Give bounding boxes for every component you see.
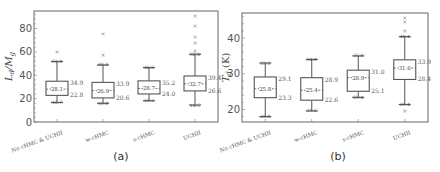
whisker-low-value: 19.6: [307, 108, 317, 113]
x-tick-label: s-cHMC: [341, 129, 364, 142]
x-tick-label: No cHMC & UCHII: [11, 129, 64, 153]
panel-label: (a): [113, 150, 128, 163]
y-tick-label: 40: [227, 33, 240, 44]
q1-value: 24.0: [162, 90, 176, 97]
outlier-marker: ×: [192, 22, 197, 29]
y-tick-label: 20: [19, 93, 32, 104]
outlier-marker: ×: [192, 12, 197, 19]
median-value: 25.8: [259, 86, 272, 92]
q3-value: 28.9: [325, 76, 339, 83]
whisker-high-value: 48.8: [98, 62, 108, 67]
box-3: 35.023.428.931.025.1s-cHMC: [341, 53, 384, 142]
y-tick-label: 20: [227, 104, 240, 115]
outlier-marker: ×: [402, 107, 407, 114]
box-3: 46.618.228.735.224.0s-cHMC: [132, 65, 175, 143]
whisker-low-value: 14.5: [190, 103, 200, 108]
panel-label: (b): [330, 150, 346, 163]
whisker-high-value: 33.0: [260, 61, 270, 66]
median-value: 28.1: [51, 86, 63, 92]
median-value: 31.6: [399, 65, 412, 71]
whisker-low-value: 18.0: [260, 114, 270, 119]
q3-value: 33.9: [418, 58, 432, 65]
panel-a: 020406080Ld/Mg51.816.728.134.922.8×No cH…: [3, 11, 222, 163]
x-tick-label: UCHII: [392, 129, 411, 141]
q3-value: 33.9: [116, 80, 130, 87]
q1-value: 22.8: [70, 91, 84, 98]
box-2: 34.019.625.428.922.6w-cHMC: [293, 57, 338, 143]
q1-value: 26.6: [208, 87, 222, 94]
q1-value: 20.6: [116, 94, 130, 101]
q3-value: 34.9: [70, 79, 84, 86]
outlier-marker: ×: [100, 51, 105, 58]
outlier-marker: ×: [402, 27, 407, 34]
median-value: 26.9: [97, 88, 110, 94]
median-value: 28.7: [143, 85, 156, 91]
y-tick-label: 60: [19, 46, 32, 57]
x-tick-label: w-cHMC: [84, 129, 109, 143]
panel-b: 203040Td (K)33.018.025.829.123.3No cHMC …: [219, 13, 431, 163]
outlier-marker: ×: [54, 48, 59, 55]
y-axis-label: Ld/Mg: [3, 51, 16, 82]
outlier-marker: ×: [402, 14, 407, 21]
whisker-high-value: 34.0: [307, 57, 317, 62]
median-value: 25.4: [306, 87, 319, 93]
x-tick-label: s-cHMC: [132, 129, 155, 142]
x-tick-label: w-cHMC: [293, 129, 318, 143]
q3-value: 35.2: [162, 79, 176, 86]
q1-value: 28.4: [418, 75, 432, 82]
median-value: 32.7: [189, 81, 202, 87]
whisker-high-value: 40.4: [400, 34, 410, 39]
x-tick-label: UCHII: [182, 129, 201, 141]
box-2: 48.816.026.933.920.6××w-cHMC: [84, 30, 129, 143]
q1-value: 25.1: [371, 87, 384, 94]
whisker-high-value: 35.0: [353, 53, 363, 58]
y-tick-label: 0: [26, 117, 32, 128]
figure: 020406080Ld/Mg51.816.728.134.922.8×No cH…: [0, 0, 440, 172]
q1-value: 23.3: [278, 94, 292, 101]
q3-value: 29.1: [278, 75, 291, 82]
outlier-marker: ×: [100, 30, 105, 37]
iqr-box: [347, 70, 369, 91]
y-tick-label: 80: [19, 23, 32, 34]
x-tick-label: No cHMC & UCHII: [219, 129, 272, 153]
y-tick-label: 40: [19, 70, 32, 81]
whisker-high-value: 51.8: [52, 59, 62, 64]
outlier-marker: ×: [192, 47, 197, 54]
q3-value: 31.0: [371, 68, 385, 75]
whisker-low-value: 23.4: [353, 95, 363, 100]
outlier-marker: ×: [192, 33, 197, 40]
whisker-low-value: 16.7: [52, 100, 62, 105]
median-value: 28.9: [352, 75, 365, 81]
whisker-high-value: 46.6: [144, 65, 154, 70]
whisker-low-value: 16.0: [98, 101, 108, 106]
whisker-low-value: 18.2: [144, 98, 154, 103]
q1-value: 22.6: [325, 96, 339, 103]
